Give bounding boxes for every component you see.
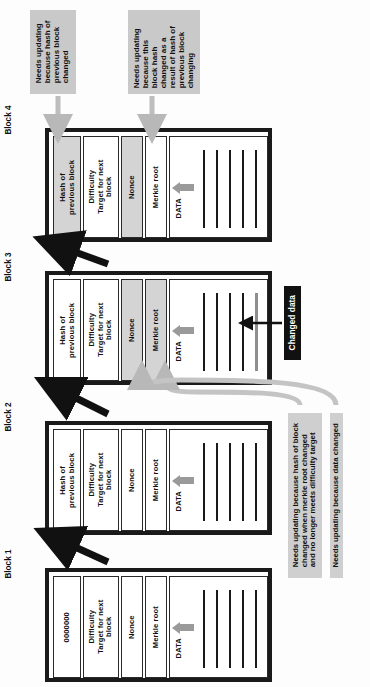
block-2-prev-hash-cell: Hash of previous block bbox=[53, 429, 81, 531]
block-2-merkle-cell: Merkle root bbox=[145, 429, 167, 531]
callout-hash-prev-changed: Needs updating because hash of previous … bbox=[30, 10, 76, 94]
block-2-data-lines bbox=[170, 430, 267, 530]
block-3-data-cell: DATA bbox=[169, 279, 268, 381]
block-caption-2: Block 2 bbox=[5, 407, 29, 416]
diagram-canvas: Block 1 0000000 Difficulty Target for ne… bbox=[0, 0, 370, 687]
block-1-prev-hash-cell: 0000000 bbox=[53, 576, 81, 678]
callout-block-hash-changed: Needs updating because this block hash c… bbox=[128, 10, 200, 94]
chain-arrow-3-to-4 bbox=[64, 248, 108, 264]
callout-changed-data: Changed data bbox=[284, 286, 301, 360]
block-1-difficulty-cell: Difficulty Target for next block bbox=[83, 576, 119, 678]
block-1-merkle-cell: Merkle root bbox=[145, 576, 167, 678]
block-4-merkle-cell: Merkle root bbox=[145, 136, 167, 238]
block-1-data-lines bbox=[170, 577, 267, 677]
block-3-prev-hash-cell: Hash of previous block bbox=[53, 279, 81, 381]
block-1-nonce-cell: Nonce bbox=[121, 576, 143, 678]
block-frame-4: Hash of previous block Difficulty Target… bbox=[45, 128, 272, 242]
block-4-difficulty-cell: Difficulty Target for next block bbox=[83, 136, 119, 238]
block-caption-4: Block 4 bbox=[5, 110, 29, 119]
block-3-merkle-cell: Merkle root bbox=[145, 279, 167, 381]
block-4-data-cell: DATA bbox=[169, 136, 268, 238]
block-3-nonce-cell: Nonce bbox=[121, 279, 143, 381]
block-2-difficulty-cell: Difficulty Target for next block bbox=[83, 429, 119, 531]
block-4-data-lines bbox=[170, 137, 267, 237]
block-1-data-cell: DATA bbox=[169, 576, 268, 678]
block-frame-2: Hash of previous block Difficulty Target… bbox=[45, 421, 272, 535]
callout-data-changed: Needs updating because data changed bbox=[330, 413, 343, 578]
block-3-data-lines bbox=[170, 280, 267, 380]
block-caption-1: Block 1 bbox=[5, 554, 29, 563]
changed-data-line bbox=[255, 293, 258, 371]
chain-arrow-1-to-2 bbox=[64, 542, 108, 562]
callout-merkle-difficulty: Needs updating because hash of block cha… bbox=[288, 413, 322, 578]
block-caption-3: Block 3 bbox=[5, 257, 29, 266]
block-frame-3: Hash of previous block Difficulty Target… bbox=[45, 271, 272, 385]
block-3-difficulty-cell: Difficulty Target for next block bbox=[83, 279, 119, 381]
block-4-prev-hash-cell: Hash of previous block bbox=[53, 136, 81, 238]
block-4-nonce-cell: Nonce bbox=[121, 136, 143, 238]
block-frame-1: 0000000 Difficulty Target for next block… bbox=[45, 568, 272, 682]
chain-arrow-2-to-3 bbox=[64, 392, 108, 414]
block-2-nonce-cell: Nonce bbox=[121, 429, 143, 531]
block-2-data-cell: DATA bbox=[169, 429, 268, 531]
